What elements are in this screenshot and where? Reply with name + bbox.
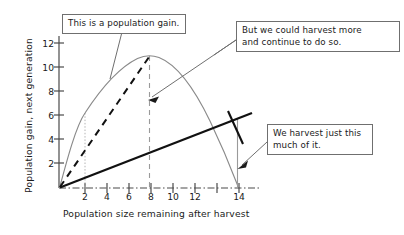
max-gain-ray bbox=[60, 57, 149, 187]
y-tick-label: 8 bbox=[38, 86, 54, 97]
x-axis-title: Population size remaining after harvest bbox=[63, 208, 249, 219]
y-tick-label: 4 bbox=[38, 134, 54, 145]
x-tick-label: 10 bbox=[165, 191, 181, 202]
y-tick-label: 12 bbox=[38, 38, 54, 49]
callout-harvest-more: But we could harvest more and continue t… bbox=[236, 21, 400, 52]
leader-amount-arrowhead bbox=[238, 161, 249, 170]
population-gain-curve bbox=[60, 56, 238, 188]
leader-amount bbox=[242, 142, 267, 165]
x-tick-label: 6 bbox=[121, 191, 137, 202]
y-tick-label: 10 bbox=[38, 62, 54, 73]
y-tick-label: 2 bbox=[38, 158, 54, 169]
callout-population-gain: This is a population gain. bbox=[62, 14, 186, 34]
leader-more-tail bbox=[214, 40, 236, 55]
callout-harvest-amount: We harvest just this much of it. bbox=[267, 124, 373, 155]
population-gain-chart: 2 4 6 8 10 12 2 4 6 8 10 12 14 Populatio… bbox=[0, 0, 404, 235]
y-tick-label: 6 bbox=[38, 110, 54, 121]
x-tick-label: 8 bbox=[143, 191, 159, 202]
y-axis-title: Population gain, next generation bbox=[23, 26, 34, 206]
x-tick-label: 4 bbox=[99, 191, 115, 202]
x-tick-label: 2 bbox=[77, 191, 93, 202]
x-tick-label: 12 bbox=[187, 191, 203, 202]
x-tick-label: 14 bbox=[231, 191, 247, 202]
leader-gain bbox=[110, 32, 122, 79]
harvest-pointer-stroke bbox=[228, 111, 243, 144]
